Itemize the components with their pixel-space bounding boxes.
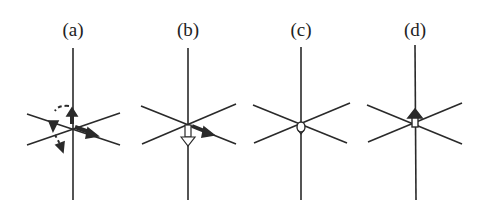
- figure: (a) (b) (c) (d): [0, 0, 492, 207]
- up-arrow-icon: [67, 108, 77, 124]
- panel-a: [27, 48, 120, 200]
- diagonal-arrow-icon: [75, 127, 98, 138]
- rotation-arrow-icon: [49, 106, 69, 152]
- panel-d: [367, 45, 462, 200]
- center-arrow-icon: [297, 122, 305, 134]
- diagonal-arrow-icon: [192, 126, 214, 137]
- panel-c: [253, 47, 350, 200]
- axes-diagram: [0, 0, 492, 207]
- panel-b: [141, 48, 236, 200]
